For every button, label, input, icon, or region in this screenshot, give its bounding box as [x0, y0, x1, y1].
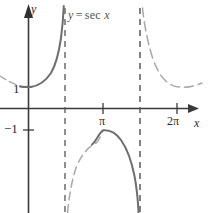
equation-function: sec — [85, 8, 101, 22]
axes-group — [0, 4, 199, 213]
sec-function-figure: y x 1 −1 π 2π y=sec x — [0, 0, 208, 213]
x-tick-label-two-pi: 2π — [167, 115, 179, 127]
x-axis-label: x — [194, 117, 199, 129]
sec-function-plot — [0, 0, 208, 213]
curve-branch2-left-faint — [68, 130, 104, 213]
equation-variable: y — [68, 8, 74, 22]
curve-branch1-main — [20, 6, 64, 87]
x-tick-label-pi: π — [99, 115, 105, 127]
equation-annotation: y=sec x — [68, 9, 110, 21]
y-axis-label: y — [31, 3, 36, 15]
y-tick-label-one: 1 — [13, 82, 20, 95]
x-axis-arrow-icon — [188, 104, 199, 113]
equation-operator: = — [74, 8, 85, 22]
equation-argument: x — [104, 8, 110, 22]
curve-branch2-main — [92, 130, 139, 213]
curve-branch3 — [143, 8, 203, 87]
y-tick-label-negative-one: −1 — [4, 122, 18, 135]
